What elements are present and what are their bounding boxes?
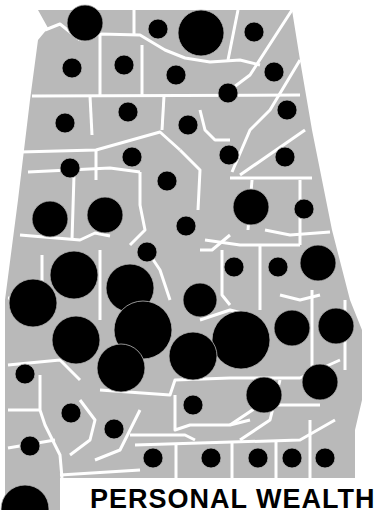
wealth-circle: [67, 5, 103, 41]
wealth-circle: [157, 171, 177, 191]
wealth-circle: [178, 10, 224, 56]
wealth-circle: [143, 448, 163, 468]
wealth-circle: [15, 364, 35, 384]
wealth-circle: [201, 448, 221, 468]
wealth-circle: [300, 245, 336, 281]
wealth-circle: [114, 55, 134, 75]
wealth-circle: [264, 62, 284, 82]
wealth-circle: [52, 316, 100, 364]
wealth-circle: [244, 22, 264, 42]
wealth-circle: [268, 257, 288, 277]
wealth-circle: [275, 147, 295, 167]
wealth-circle: [318, 308, 354, 344]
wealth-circle: [122, 147, 142, 167]
wealth-circle: [218, 83, 238, 103]
wealth-circle: [50, 251, 98, 299]
wealth-circle: [104, 419, 124, 439]
wealth-circle: [212, 311, 270, 369]
wealth-circle: [176, 216, 196, 236]
wealth-circle: [32, 201, 68, 237]
wealth-circle: [61, 403, 81, 423]
wealth-circle: [233, 189, 269, 225]
wealth-circle: [87, 197, 123, 233]
wealth-circle: [97, 344, 145, 392]
wealth-circle: [294, 199, 314, 219]
wealth-circle: [277, 100, 297, 120]
wealth-circle: [55, 113, 75, 133]
wealth-circle: [20, 436, 40, 456]
wealth-circle: [60, 158, 80, 178]
wealth-circle: [166, 65, 186, 85]
wealth-circle: [137, 242, 157, 262]
wealth-circle: [282, 448, 302, 468]
wealth-circle: [248, 448, 268, 468]
wealth-circle: [9, 279, 57, 327]
map-title: PERSONAL WEALTH: [90, 486, 376, 510]
wealth-circle: [183, 395, 203, 415]
wealth-circle: [315, 448, 335, 468]
wealth-circle: [148, 19, 168, 39]
wealth-circle: [274, 310, 310, 346]
wealth-circle: [62, 58, 82, 78]
wealth-circle: [224, 257, 244, 277]
wealth-circle: [118, 102, 138, 122]
wealth-circle: [183, 283, 217, 317]
wealth-circle: [246, 377, 282, 413]
wealth-circle: [169, 332, 217, 380]
wealth-circle: [178, 115, 198, 135]
wealth-circle: [302, 364, 338, 400]
wealth-circle: [219, 145, 239, 165]
